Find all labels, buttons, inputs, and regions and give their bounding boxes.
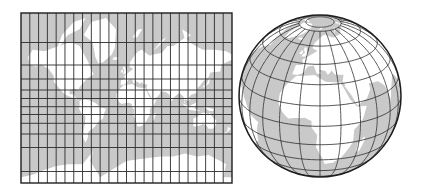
- figure-canvas: [0, 0, 421, 194]
- mercator-map: [21, 13, 232, 194]
- projection-comparison-figure: World map in Mercator projection (left) …: [0, 0, 421, 194]
- orthographic-globe: [237, 13, 403, 177]
